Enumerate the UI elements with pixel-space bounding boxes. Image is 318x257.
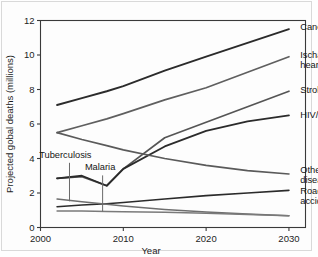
y-axis-tick-label: 8 [29, 84, 34, 95]
svg-text:diseases: diseases [300, 175, 318, 185]
svg-text:accidents: accidents [300, 196, 318, 206]
x-axis-tick-label: 2020 [196, 233, 217, 244]
x-axis-title: Year [141, 245, 160, 256]
series-line-cancers [57, 29, 289, 105]
svg-text:Road traffic: Road traffic [300, 186, 318, 196]
y-axis-tick-label: 6 [29, 118, 34, 129]
y-axis-tick-label: 10 [24, 49, 35, 60]
svg-text:Other infectious: Other infectious [300, 165, 318, 175]
series-line-road-traffic-accidents [57, 190, 289, 206]
plot-area-frame [41, 21, 306, 228]
series-line-malaria [57, 211, 289, 216]
svg-text:Ischaemic: Ischaemic [300, 50, 318, 60]
x-axis-tick-label: 2000 [30, 233, 51, 244]
annotation-label-tuberculosis: Tuberculosis [39, 150, 92, 160]
series-label-cancers: Cancers [300, 22, 318, 32]
svg-text:Stroke: Stroke [300, 85, 318, 95]
line-chart: 0246810122000201020202030YearProjected g… [0, 0, 318, 257]
series-label-hiv-aids: HIV/AIDS [300, 110, 318, 120]
series-label-ischaemic-heart-disease: Ischaemicheart disease [300, 50, 318, 70]
y-axis-tick-label: 2 [29, 187, 34, 198]
y-axis-title: Projected gobal deaths (millions) [4, 55, 15, 193]
series-label-road-traffic-accidents: Road trafficaccidents [300, 186, 318, 206]
svg-text:heart disease: heart disease [300, 60, 318, 70]
annotation-label-malaria: Malaria [85, 162, 116, 172]
y-axis-tick-label: 4 [29, 153, 34, 164]
series-label-stroke: Stroke [300, 85, 318, 95]
svg-text:HIV/AIDS: HIV/AIDS [300, 110, 318, 120]
y-axis-tick-label: 12 [24, 15, 35, 26]
svg-text:Cancers: Cancers [300, 22, 318, 32]
x-axis-tick-label: 2030 [278, 233, 299, 244]
figure-container: 0246810122000201020202030YearProjected g… [0, 0, 318, 257]
x-axis-tick-label: 2010 [113, 233, 134, 244]
y-axis-tick-label: 0 [29, 222, 34, 233]
series-line-hiv-aids [57, 115, 289, 185]
series-label-other-infectious-diseases: Other infectiousdiseases [300, 165, 318, 185]
